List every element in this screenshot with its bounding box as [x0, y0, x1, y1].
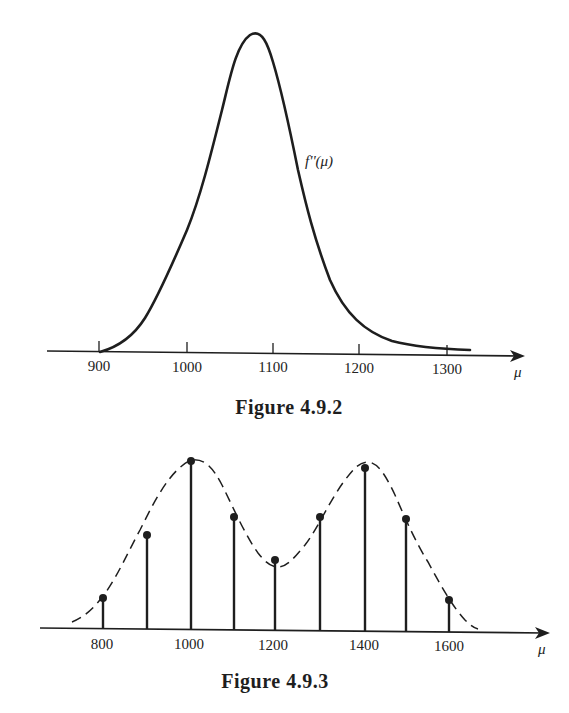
x-axis [47, 351, 520, 356]
figure-4-9-2: 900 1000 1100 1200 1300 μ f''(μ) Figure … [47, 33, 525, 419]
marker-800 [99, 594, 107, 602]
figure-4-9-3: 800 1000 1200 1400 1600 μ Figure 4.9.3 [40, 457, 550, 693]
curve-f-double-prime [100, 33, 470, 352]
tick-label-1300: 1300 [432, 361, 462, 377]
tick-label-900: 900 [88, 358, 111, 374]
tick-label-800: 800 [91, 636, 114, 652]
curve-label: f''(μ) [305, 153, 333, 170]
tick-label-1200: 1200 [344, 360, 374, 376]
caption-figure-4-9-2: Figure 4.9.2 [235, 396, 342, 419]
tick-label-1000: 1000 [174, 636, 204, 652]
marker-1400 [361, 464, 369, 472]
tick-label-1100: 1100 [258, 359, 287, 375]
x-axis [40, 628, 545, 633]
marker-1600 [445, 596, 453, 604]
marker-1000 [187, 457, 195, 465]
tick-label-1200: 1200 [258, 637, 288, 653]
marker-900 [143, 531, 151, 539]
x-axis-label: μ [537, 641, 546, 657]
marker-1100 [230, 513, 238, 521]
tick-label-1600: 1600 [434, 638, 464, 654]
figure-page: 900 1000 1100 1200 1300 μ f''(μ) Figure … [0, 0, 569, 713]
stems [103, 461, 449, 632]
marker-1500 [402, 515, 410, 523]
tick-label-1400: 1400 [349, 637, 379, 653]
x-axis-label: μ [513, 364, 522, 380]
tick-label-1000: 1000 [172, 359, 202, 375]
caption-figure-4-9-3: Figure 4.9.3 [221, 670, 328, 693]
marker-1300 [316, 513, 324, 521]
marker-1200 [271, 556, 279, 564]
